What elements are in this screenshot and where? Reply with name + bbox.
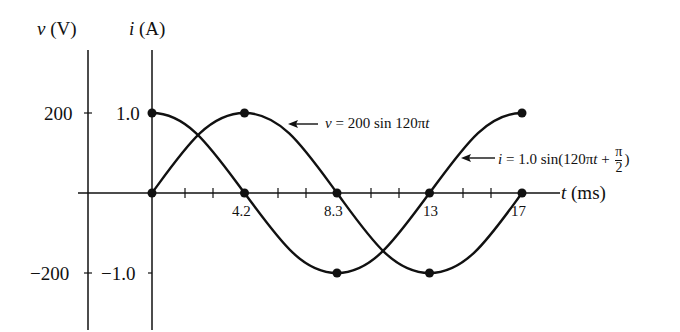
current-min-label: −1.0 <box>101 264 135 283</box>
current-annotation-arrow <box>461 154 495 162</box>
current-axis-label: i (A) <box>129 19 165 38</box>
voltage-max-label: 200 <box>44 104 73 123</box>
current-equation: i = 1.0 sin(120πt + π2) <box>498 145 629 175</box>
time-tick-8.3: 8.3 <box>324 204 343 219</box>
time-axis-label: t (ms) <box>561 183 606 202</box>
time-tick-4.2: 4.2 <box>232 204 251 219</box>
current-max-label: 1.0 <box>116 104 140 123</box>
voltage-equation: v = 200 sin 120πt <box>325 116 429 131</box>
voltage-annotation-arrow <box>288 120 318 128</box>
voltage-axis-label: v (V) <box>37 19 77 38</box>
time-tick-17: 17 <box>511 204 526 219</box>
time-tick-13: 13 <box>423 204 438 219</box>
pi-over-two-fraction: π2 <box>615 145 622 175</box>
voltage-min-label: −200 <box>30 264 69 283</box>
